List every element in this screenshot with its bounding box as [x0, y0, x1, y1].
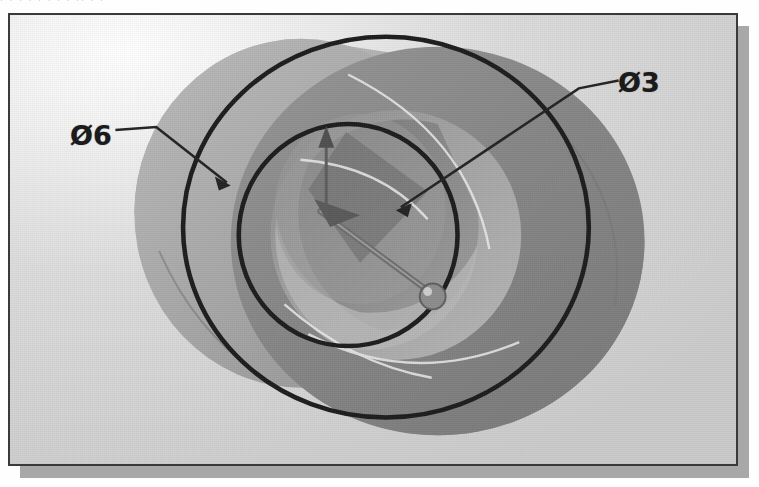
cropped-text-remnant: · · · · · · · · ·· · · [0, 0, 759, 9]
page-root: · · · · · · · · ·· · · [0, 0, 759, 487]
axis-handle-sphere-highlight [423, 287, 432, 296]
figure-frame: Ø6 Ø3 [8, 13, 738, 466]
dimension-label-outer-diameter: Ø6 [70, 120, 112, 151]
figure-canvas: Ø6 Ø3 [10, 15, 736, 464]
axis-handle-sphere[interactable] [420, 284, 446, 310]
dimension-label-inner-diameter: Ø3 [618, 67, 660, 98]
cropped-text-remnant-label: · · · · · · · · ·· · · [0, 0, 105, 5]
